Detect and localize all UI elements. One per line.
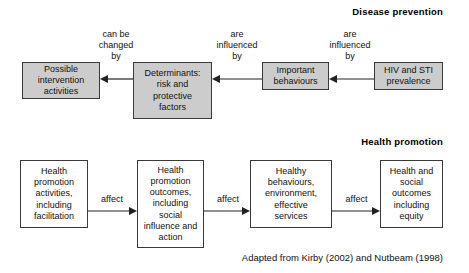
figure-canvas: Disease prevention Possible intervention… [0,0,469,273]
box-determinants: Determinants: risk and protective factor… [133,62,212,119]
arrow-activities-to-outcomes [88,206,137,216]
box-health-promotion-activities: Health promotion activities, including f… [20,160,88,228]
box-label: HIV and STI prevalence [381,65,436,87]
edge-label-are-influenced-by-1: are influenced by [207,29,267,62]
box-label: Possible intervention activities [35,64,88,98]
box-hiv-sti-prevalence: HIV and STI prevalence [374,62,443,90]
arrow-behaviours-to-determinants [212,74,262,84]
edge-label-affect-1: affect [88,194,136,205]
arrow-outcomes-to-behaviours [204,206,250,216]
box-health-social-outcomes: Health and social outcomes including equ… [380,160,443,228]
edge-label-can-be-changed-by: can be changed by [86,29,146,62]
box-label: Important behaviours [270,65,320,87]
box-label: Health promotion activities, including f… [31,166,77,222]
edge-label-are-influenced-by-2: are influenced by [320,29,380,62]
box-important-behaviours: Important behaviours [262,62,329,90]
figure-caption: Adapted from Kirby (2002) and Nutbeam (1… [193,252,443,263]
section-title-health-promotion: Health promotion [300,136,443,147]
box-label: Health promotion outcomes, including soc… [141,165,201,243]
box-healthy-behaviours: Healthy behaviours, environment, effecti… [250,160,332,228]
edge-label-affect-3: affect [333,194,380,205]
arrow-prevalence-to-behaviours [329,74,374,84]
box-label: Healthy behaviours, environment, effecti… [262,166,320,222]
box-label: Determinants: risk and protective factor… [141,68,203,113]
arrow-determinants-to-interventions [100,74,133,84]
box-health-promotion-outcomes: Health promotion outcomes, including soc… [137,160,204,248]
arrow-behaviours-to-outcomes [332,206,380,216]
box-label: Health and social outcomes including equ… [387,166,437,222]
section-title-disease-prevention: Disease prevention [300,6,443,17]
edge-label-affect-2: affect [205,194,251,205]
box-possible-intervention-activities: Possible intervention activities [22,62,100,99]
